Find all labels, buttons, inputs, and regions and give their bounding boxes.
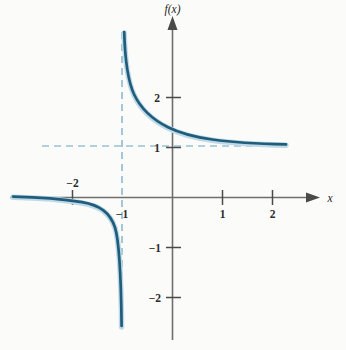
x-axis-label: x: [326, 192, 333, 204]
ticklabel-x-1: 1: [220, 208, 226, 220]
function-plot: 2 1 −1 −2 1 2 −2 −1 f(x) x: [0, 0, 346, 350]
ticklabel-x-minus1: −1: [116, 208, 129, 220]
y-axis-label: f(x): [165, 3, 181, 16]
ticklabel-y-minus1: −1: [149, 242, 162, 254]
ticklabel-x-minus2: −2: [66, 177, 79, 189]
ticklabel-x-2: 2: [270, 208, 276, 220]
ticklabel-y-2: 2: [154, 92, 160, 104]
ticklabel-y-minus2: −2: [149, 292, 162, 304]
plot-svg: 2 1 −1 −2 1 2 −2 −1 f(x) x: [0, 0, 346, 350]
ticklabel-y-1: 1: [154, 142, 160, 154]
